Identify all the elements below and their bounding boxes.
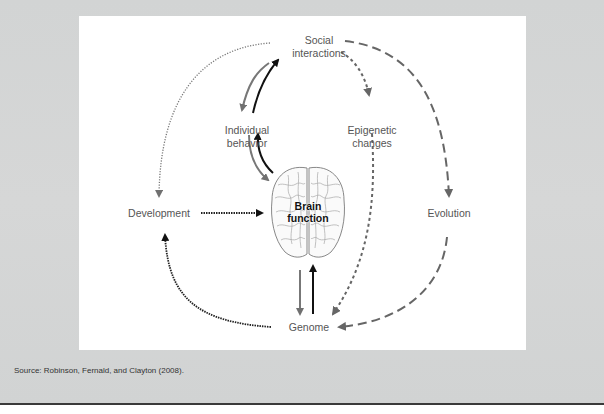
- bottom-margin: [0, 405, 604, 414]
- node-epigenetic-changes: Epigenetic changes: [327, 124, 417, 149]
- node-genome: Genome: [269, 321, 349, 334]
- node-social-interactions: Social interactions: [274, 34, 364, 59]
- arrow-individual-to-social: [253, 60, 278, 113]
- arrow-social-to-development: [159, 43, 270, 196]
- figure-panel: Social interactions Individual behavior …: [79, 16, 526, 350]
- node-brain-function: Brain function: [268, 200, 348, 224]
- node-individual-behavior: Individual behavior: [207, 124, 287, 149]
- node-evolution: Evolution: [409, 207, 489, 220]
- arrow-evolution-to-genome: [339, 237, 447, 327]
- arrow-social-to-evolution: [345, 41, 449, 196]
- source-citation: Source: Robinson, Fernald, and Clayton (…: [14, 366, 184, 375]
- node-development: Development: [119, 207, 199, 220]
- arrow-genome-to-development: [165, 235, 271, 327]
- diagram-arrows: [79, 16, 526, 350]
